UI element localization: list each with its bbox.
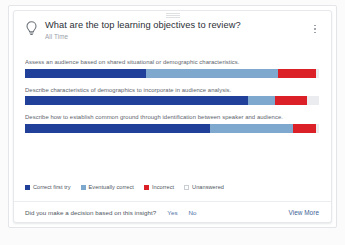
drag-grip-line xyxy=(166,17,180,18)
feedback-no-link[interactable]: No xyxy=(189,209,197,217)
bar-track xyxy=(25,124,319,133)
segment-correct-first-try[interactable] xyxy=(25,69,146,78)
insight-card: What are the top learning objectives to … xyxy=(13,10,332,223)
chart-legend: Correct first try Eventually correct Inc… xyxy=(25,184,234,191)
view-more-link[interactable]: View More xyxy=(288,209,319,217)
feedback-yes-link[interactable]: Yes xyxy=(167,209,177,217)
header-texts: What are the top learning objectives to … xyxy=(45,20,309,41)
screenshot-root: What are the top learning objectives to … xyxy=(0,0,345,245)
stacked-bar-chart: Assess an audience based on shared situa… xyxy=(14,58,331,133)
segment-eventually-correct[interactable] xyxy=(210,124,292,133)
drag-grip-line xyxy=(166,15,180,16)
legend-label: Incorrect xyxy=(152,184,174,191)
segment-correct-first-try[interactable] xyxy=(25,96,248,105)
kebab-dot xyxy=(314,25,316,27)
segment-unanswered[interactable] xyxy=(316,124,319,133)
legend-item-eventually-correct[interactable]: Eventually correct xyxy=(81,184,134,191)
legend-item-incorrect[interactable]: Incorrect xyxy=(144,184,174,191)
card-subtitle-timeframe: All Time xyxy=(45,33,309,41)
chart-row: Describe characteristics of demographics… xyxy=(25,86,319,106)
legend-label: Correct first try xyxy=(33,184,71,191)
kebab-menu-icon[interactable] xyxy=(309,21,321,37)
page-title: What are the top learning objectives to … xyxy=(45,20,309,31)
segment-incorrect[interactable] xyxy=(293,124,317,133)
bar-label: Describe characteristics of demographics… xyxy=(25,86,319,94)
card-footer: Did you make a decision based on this in… xyxy=(14,202,331,223)
chart-row: Assess an audience based on shared situa… xyxy=(25,58,319,78)
drag-grip-line xyxy=(166,13,180,14)
segment-incorrect[interactable] xyxy=(275,96,307,105)
segment-unanswered[interactable] xyxy=(307,96,319,105)
legend-label: Eventually correct xyxy=(89,184,134,191)
segment-correct-first-try[interactable] xyxy=(25,124,210,133)
legend-swatch-icon xyxy=(184,185,189,190)
bar-label: Describe how to establish common ground … xyxy=(25,113,319,121)
legend-label: Unanswered xyxy=(192,184,224,191)
legend-swatch-icon xyxy=(25,185,30,190)
legend-swatch-icon xyxy=(81,185,86,190)
segment-incorrect[interactable] xyxy=(278,69,316,78)
feedback-question: Did you make a decision based on this in… xyxy=(25,209,156,217)
kebab-dot xyxy=(314,32,316,34)
kebab-dot xyxy=(314,28,316,30)
segment-unanswered[interactable] xyxy=(316,69,319,78)
bar-track xyxy=(25,96,319,105)
legend-item-unanswered[interactable]: Unanswered xyxy=(184,184,224,191)
segment-eventually-correct[interactable] xyxy=(146,69,278,78)
segment-eventually-correct[interactable] xyxy=(248,96,274,105)
chart-row: Describe how to establish common ground … xyxy=(25,113,319,133)
bar-label: Assess an audience based on shared situa… xyxy=(25,58,319,66)
drag-grip-icon[interactable] xyxy=(166,13,180,19)
bar-track xyxy=(25,69,319,78)
card-header: What are the top learning objectives to … xyxy=(14,20,331,54)
legend-item-correct-first-try[interactable]: Correct first try xyxy=(25,184,71,191)
lightbulb-icon xyxy=(25,21,38,36)
legend-swatch-icon xyxy=(144,185,149,190)
